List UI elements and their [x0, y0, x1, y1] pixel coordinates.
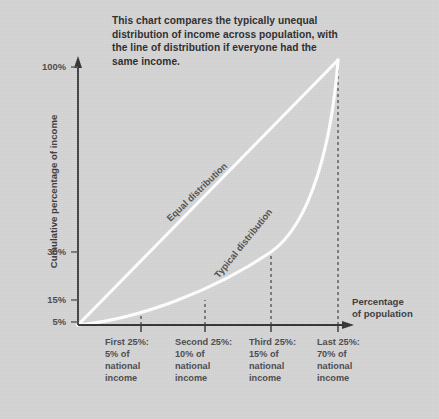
quartile-line3: national [317, 360, 381, 372]
quartile-line4: income [317, 372, 381, 384]
y-axis-arrow-icon [74, 56, 82, 68]
y-axis-title: Cumulative percentage of income [48, 92, 59, 292]
quartile-line4: income [105, 372, 169, 384]
quartile-heading: Third 25%: [249, 336, 313, 348]
y-tick-label-5: 5% [20, 316, 66, 327]
chart-page: This chart compares the typically unequa… [0, 0, 439, 419]
quartile-label-first: First 25%: 5% of national income [105, 336, 169, 384]
equal-distribution-line [78, 60, 338, 325]
y-tick-label-15: 15% [20, 294, 66, 305]
quartile-line3: national [249, 360, 313, 372]
quartile-heading: Second 25%: [175, 336, 239, 348]
quartile-line4: income [175, 372, 239, 384]
quartile-share: 5% of [105, 348, 169, 360]
quartile-heading: Last 25%: [317, 336, 381, 348]
y-axis-ticks [71, 67, 78, 322]
chart-description: This chart compares the typically unequa… [112, 14, 344, 68]
quartile-line4: income [249, 372, 313, 384]
quartile-line3: national [105, 360, 169, 372]
quartile-label-third: Third 25%: 15% of national income [249, 336, 313, 384]
x-axis-title-line1: Percentage [352, 296, 436, 308]
x-axis-arrow-icon [342, 321, 354, 329]
x-axis-title-line2: of population [352, 308, 436, 320]
quartile-heading: First 25%: [105, 336, 169, 348]
y-tick-label-100: 100% [20, 61, 66, 72]
x-axis-title: Percentage of population [352, 296, 436, 321]
quartile-share: 70% of [317, 348, 381, 360]
quartile-guides [141, 62, 338, 325]
quartile-label-last: Last 25%: 70% of national income [317, 336, 381, 384]
x-axis-ticks [141, 325, 338, 332]
quartile-label-second: Second 25%: 10% of national income [175, 336, 239, 384]
y-tick-label-30: 30% [20, 246, 66, 257]
quartile-line3: national [175, 360, 239, 372]
quartile-share: 15% of [249, 348, 313, 360]
quartile-share: 10% of [175, 348, 239, 360]
